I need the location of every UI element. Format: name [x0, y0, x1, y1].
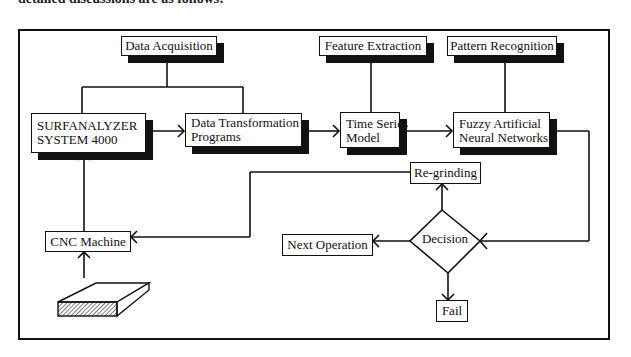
fail-node: Fail [436, 300, 468, 322]
decision-node: Decision [412, 231, 478, 247]
feature-extraction-label: Feature Extraction [325, 39, 421, 53]
surfanalyzer-label-line2: SYSTEM 4000 [37, 133, 140, 147]
workpiece-block-icon [58, 283, 149, 316]
data-transformation-node: Data Transformation Programs [185, 113, 302, 147]
pattern-recognition-node: Pattern Recognition [447, 36, 557, 56]
decision-label: Decision [422, 231, 468, 246]
surfanalyzer-label-line1: SURFANALYZER [37, 119, 140, 133]
re-grinding-label: Re-grinding [414, 166, 477, 180]
time-series-node: Time Series Model [340, 112, 400, 148]
data-transformation-label-line1: Data Transformation [191, 116, 296, 130]
re-grinding-node: Re-grinding [410, 162, 481, 184]
cnc-machine-node: CNC Machine [45, 231, 131, 252]
next-operation-node: Next Operation [282, 234, 373, 256]
pattern-recognition-label: Pattern Recognition [450, 39, 554, 53]
time-series-label-line2: Model [346, 131, 394, 145]
fail-label: Fail [442, 304, 462, 318]
data-acquisition-label: Data Acquisition [125, 39, 213, 53]
time-series-label-line1: Time Series [346, 117, 394, 131]
data-transformation-label-line2: Programs [191, 130, 296, 144]
data-acquisition-node: Data Acquisition [121, 36, 217, 56]
fuzzy-ann-label-line2: Neural Networks [459, 131, 544, 145]
next-operation-label: Next Operation [287, 238, 368, 252]
cnc-machine-label: CNC Machine [50, 235, 125, 249]
feature-extraction-node: Feature Extraction [319, 36, 427, 56]
fuzzy-ann-label-line1: Fuzzy Artificial [459, 117, 544, 131]
surfanalyzer-node: SURFANALYZER SYSTEM 4000 [31, 113, 146, 153]
fuzzy-ann-node: Fuzzy Artificial Neural Networks [453, 112, 550, 148]
